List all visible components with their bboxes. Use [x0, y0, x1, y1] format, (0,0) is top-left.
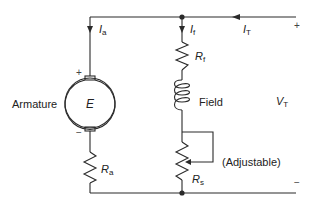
field-resistor-symbol: R [195, 50, 203, 62]
armature-resistor-subscript: a [109, 168, 113, 177]
field-resistor-subscript: f [203, 55, 205, 64]
field-current-subscript: f [193, 28, 195, 37]
bottom-junction-dot [179, 190, 184, 195]
dc-motor-circuit-diagram: Ia If IT + − VT Rf Field (Adjustable) Rs… [0, 0, 316, 207]
terminal-voltage-label: VT [276, 96, 288, 107]
terminal-current-arrow [232, 14, 240, 20]
armature-label: Armature [12, 99, 57, 110]
adjustable-tap-arrow [185, 159, 191, 165]
terminal-minus-sign: − [294, 178, 300, 188]
terminal-plus-sign: + [294, 21, 300, 31]
adjustable-note: (Adjustable) [222, 157, 281, 168]
terminal-current-label: IT [243, 24, 251, 35]
armature-resistor-zigzag [84, 152, 96, 183]
armature-plus-sign: + [76, 68, 82, 78]
terminal-current-subscript: T [246, 28, 251, 37]
series-resistor-zigzag [176, 142, 188, 180]
terminal-voltage-subscript: T [283, 100, 288, 109]
field-current-label: If [190, 24, 195, 35]
field-coil-label: Field [199, 97, 223, 108]
armature-current-arrow [87, 26, 93, 33]
series-resistor-label: Rs [192, 174, 204, 185]
armature-emf-label: E [86, 98, 94, 110]
armature-minus-sign: − [76, 128, 82, 138]
field-resistor-zigzag [176, 42, 188, 70]
field-current-arrow [179, 26, 185, 33]
armature-current-subscript: a [102, 28, 106, 37]
armature-resistor-label: Ra [101, 164, 113, 175]
armature-current-label: Ia [99, 24, 107, 35]
series-resistor-subscript: s [200, 178, 204, 187]
top-junction-dot [179, 14, 184, 19]
field-resistor-label: Rf [195, 51, 205, 62]
series-resistor-symbol: R [192, 173, 200, 185]
field-coil [175, 80, 190, 110]
armature-resistor-symbol: R [101, 163, 109, 175]
